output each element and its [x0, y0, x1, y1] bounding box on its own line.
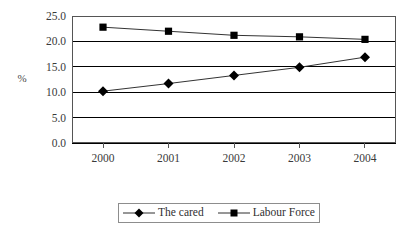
data-point-marker[interactable] [296, 33, 303, 40]
data-point-marker[interactable] [165, 28, 172, 35]
data-point-marker[interactable] [98, 86, 108, 96]
data-point-marker[interactable] [230, 32, 237, 39]
data-point-marker[interactable] [229, 70, 239, 80]
data-point-marker[interactable] [164, 79, 174, 89]
diamond-marker-icon [123, 207, 155, 219]
line-chart: % 25.020.015.010.05.00.0 200020012002200… [0, 0, 416, 234]
legend-label-labour-force: Labour Force [253, 207, 315, 219]
data-point-marker[interactable] [99, 24, 106, 31]
data-point-marker[interactable] [360, 52, 370, 62]
chart-legend: The cared Labour Force [118, 203, 320, 223]
square-marker-icon [218, 207, 250, 219]
legend-item-labour-force[interactable]: Labour Force [218, 207, 315, 219]
data-point-marker[interactable] [294, 62, 304, 72]
legend-label-the-cared: The cared [158, 207, 204, 219]
plot-area [0, 0, 416, 234]
legend-item-the-cared[interactable]: The cared [123, 207, 204, 219]
data-point-marker[interactable] [361, 36, 368, 43]
